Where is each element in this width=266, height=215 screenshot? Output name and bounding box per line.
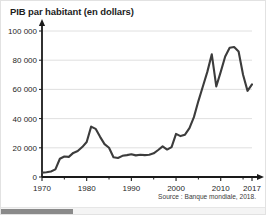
y-tick-label: 0 bbox=[33, 173, 38, 182]
horizontal-scroll-thumb[interactable] bbox=[1, 209, 73, 214]
y-axis-labels: 020 00040 00060 00080 000100 000 bbox=[8, 27, 37, 182]
x-axis-labels: 197019801990200020102017 bbox=[33, 184, 261, 193]
x-tick-label: 1970 bbox=[33, 184, 51, 193]
x-tick-label: 2000 bbox=[167, 184, 185, 193]
y-tick-label: 40 000 bbox=[13, 115, 38, 124]
horizontal-scrollbar[interactable] bbox=[1, 207, 266, 214]
y-tick-label: 20 000 bbox=[13, 144, 38, 153]
x-tick-label: 1980 bbox=[78, 184, 96, 193]
data-line-series bbox=[42, 47, 252, 173]
gridlines bbox=[42, 31, 252, 148]
axis-lines bbox=[39, 19, 264, 180]
y-tick-label: 80 000 bbox=[13, 56, 38, 65]
x-tick-label: 2017 bbox=[243, 184, 261, 193]
source-note: Source : Banque mondiale, 2018. bbox=[158, 193, 256, 200]
chart-plot-area: 020 00040 00060 00080 000100 000 1970198… bbox=[1, 1, 266, 215]
y-tick-label: 60 000 bbox=[13, 85, 38, 94]
chart-figure: PIB par habitant (en dollars) 020 00040 … bbox=[0, 0, 266, 215]
y-tick-label: 100 000 bbox=[8, 27, 37, 36]
x-tick-label: 2010 bbox=[212, 184, 230, 193]
x-tick-label: 1990 bbox=[122, 184, 140, 193]
